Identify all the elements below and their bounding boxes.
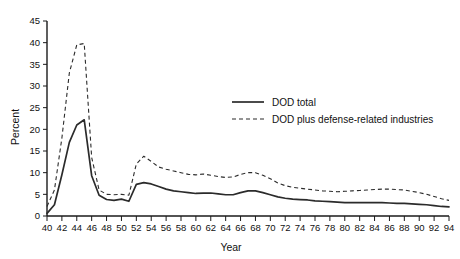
x-axis-tick-labels: 4042444648505254565860626466687072747678… <box>42 222 455 233</box>
x-tick-label: 58 <box>176 222 187 233</box>
line-chart: 051015202530354045 404244464850525456586… <box>0 0 460 259</box>
x-tick-label: 86 <box>384 222 395 233</box>
x-tick-label: 94 <box>444 222 455 233</box>
y-tick-label: 20 <box>29 124 40 135</box>
x-tick-label: 78 <box>325 222 336 233</box>
x-tick-label: 74 <box>295 222 306 233</box>
x-tick-label: 48 <box>101 222 112 233</box>
legend-label-dod-plus-industries: DOD plus defense-related industries <box>272 114 433 125</box>
x-tick-label: 46 <box>86 222 97 233</box>
x-tick-label: 80 <box>339 222 350 233</box>
x-tick-label: 82 <box>354 222 365 233</box>
x-tick-label: 56 <box>161 222 172 233</box>
y-tick-label: 40 <box>29 37 40 48</box>
x-tick-label: 40 <box>42 222 53 233</box>
x-tick-label: 62 <box>205 222 216 233</box>
y-tick-label: 30 <box>29 80 40 91</box>
x-axis-title: Year <box>220 241 242 253</box>
y-tick-label: 5 <box>35 189 40 200</box>
x-tick-label: 66 <box>235 222 246 233</box>
x-tick-label: 90 <box>414 222 425 233</box>
y-axis-title: Percent <box>9 109 21 145</box>
x-tick-label: 72 <box>280 222 291 233</box>
x-tick-label: 42 <box>57 222 68 233</box>
y-tick-label: 35 <box>29 59 40 70</box>
y-tick-label: 45 <box>29 15 40 26</box>
x-tick-label: 88 <box>399 222 410 233</box>
chart-legend: DOD total DOD plus defense-related indus… <box>232 97 433 125</box>
y-tick-label: 10 <box>29 167 40 178</box>
y-tick-label: 25 <box>29 102 40 113</box>
x-tick-label: 52 <box>131 222 142 233</box>
x-tick-label: 76 <box>310 222 321 233</box>
y-tick-label: 15 <box>29 145 40 156</box>
series-line-dod-plus-industries <box>47 44 449 207</box>
x-tick-label: 70 <box>265 222 276 233</box>
series-line-dod-total <box>47 120 449 214</box>
x-tick-label: 50 <box>116 222 127 233</box>
x-tick-label: 54 <box>146 222 157 233</box>
x-tick-label: 84 <box>369 222 380 233</box>
chart-container: 051015202530354045 404244464850525456586… <box>0 0 460 259</box>
x-axis-tick-marks <box>47 216 449 221</box>
x-tick-label: 44 <box>71 222 82 233</box>
x-tick-label: 60 <box>191 222 202 233</box>
x-tick-label: 92 <box>429 222 440 233</box>
y-tick-label: 0 <box>35 210 40 221</box>
x-tick-label: 68 <box>250 222 261 233</box>
legend-label-dod-total: DOD total <box>272 97 316 108</box>
x-tick-label: 64 <box>220 222 231 233</box>
y-axis-tick-labels: 051015202530354045 <box>29 15 40 221</box>
